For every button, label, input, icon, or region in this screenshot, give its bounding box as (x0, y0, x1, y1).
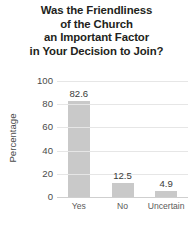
chart-title-line-4: in Your Decision to Join? (0, 45, 193, 59)
x-axis-category-label: Yes (72, 201, 86, 211)
y-axis-label: Percentage (7, 113, 18, 162)
bar-value-label: 12.5 (113, 170, 132, 181)
bar-value-label: 82.6 (69, 88, 88, 99)
y-axis-tick-label: 100 (19, 76, 53, 86)
y-axis-tick-label: 0 (19, 192, 53, 202)
y-axis-tick-label: 60 (19, 123, 53, 133)
axis-baseline (57, 197, 188, 198)
x-axis-category-labels: YesNoUncertain (57, 201, 188, 215)
y-axis-tick-label: 20 (19, 169, 53, 179)
y-axis-tick-labels: 020406080100 (19, 81, 53, 197)
bar-value-labels-layer: 82.612.54.9 (57, 81, 188, 197)
chart-title-line-1: Was the Friendliness (0, 4, 193, 18)
bar-chart-figure: Was the Friendliness of the Church an Im… (0, 0, 193, 236)
chart-title-line-3: an Important Factor (0, 31, 193, 45)
plot-area: 82.612.54.9 (57, 81, 188, 197)
chart-title-line-2: of the Church (0, 18, 193, 32)
y-axis-tick-label: 80 (19, 99, 53, 109)
chart-title: Was the Friendliness of the Church an Im… (0, 4, 193, 58)
x-axis-category-label: No (117, 201, 128, 211)
y-axis-tick-label: 40 (19, 146, 53, 156)
bar-value-label: 4.9 (159, 178, 172, 189)
y-axis-label-container: Percentage (5, 78, 19, 198)
x-axis-category-label: Uncertain (148, 201, 185, 211)
